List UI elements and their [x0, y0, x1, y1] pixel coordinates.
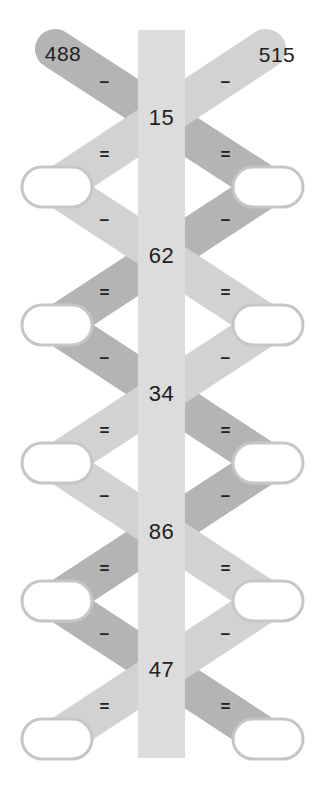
subtrahend-4: 86 [149, 521, 174, 543]
minus-sign-right-1: − [221, 74, 231, 91]
answer-oval-right-4[interactable] [233, 581, 303, 621]
answer-oval-right-1[interactable] [233, 167, 303, 207]
subtrahend-3: 34 [149, 383, 174, 405]
answer-oval-right-5[interactable] [233, 719, 303, 759]
answer-oval-left-3[interactable] [22, 443, 92, 483]
minus-sign-right-5: − [221, 626, 231, 643]
worksheet-page: 48851515−−==62−−==34−−==86−−==47−−== [0, 0, 323, 791]
equals-sign-left-1: = [100, 146, 110, 163]
minus-sign-right-4: − [221, 488, 231, 505]
answer-oval-left-2[interactable] [22, 305, 92, 345]
equals-sign-left-5: = [100, 698, 110, 715]
minus-sign-left-1: − [100, 74, 110, 91]
equals-sign-right-1: = [221, 146, 231, 163]
answer-oval-right-3[interactable] [233, 443, 303, 483]
minus-sign-right-3: − [221, 350, 231, 367]
minus-sign-left-5: − [100, 626, 110, 643]
answer-oval-left-4[interactable] [22, 581, 92, 621]
equals-sign-left-3: = [100, 422, 110, 439]
subtrahend-5: 47 [149, 659, 174, 681]
minus-sign-left-2: − [100, 212, 110, 229]
equals-sign-left-4: = [100, 560, 110, 577]
equals-sign-right-3: = [221, 422, 231, 439]
equals-sign-right-5: = [221, 698, 231, 715]
minus-sign-left-3: − [100, 350, 110, 367]
equals-sign-right-4: = [221, 560, 231, 577]
minus-sign-left-4: − [100, 488, 110, 505]
answer-oval-left-5[interactable] [22, 719, 92, 759]
subtrahend-2: 62 [149, 245, 174, 267]
start-value-left: 488 [45, 43, 82, 64]
answer-oval-right-2[interactable] [233, 305, 303, 345]
equals-sign-left-2: = [100, 284, 110, 301]
answer-oval-left-1[interactable] [22, 167, 92, 207]
subtrahend-1: 15 [149, 107, 174, 129]
equals-sign-right-2: = [221, 284, 231, 301]
minus-sign-right-2: − [221, 212, 231, 229]
start-value-right: 515 [259, 44, 296, 65]
